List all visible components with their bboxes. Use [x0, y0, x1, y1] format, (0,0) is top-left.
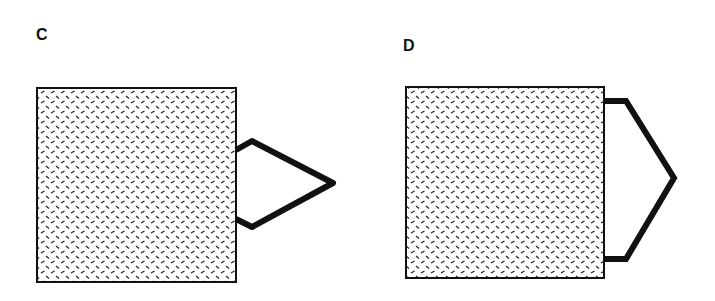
hatched-square-c [37, 88, 236, 282]
panel-c [37, 88, 333, 282]
panel-d [406, 87, 674, 278]
hatched-square-d [406, 87, 604, 278]
pointed-loop-d [604, 101, 674, 259]
diagram-canvas [0, 0, 715, 301]
triangle-loop-c [236, 141, 333, 227]
